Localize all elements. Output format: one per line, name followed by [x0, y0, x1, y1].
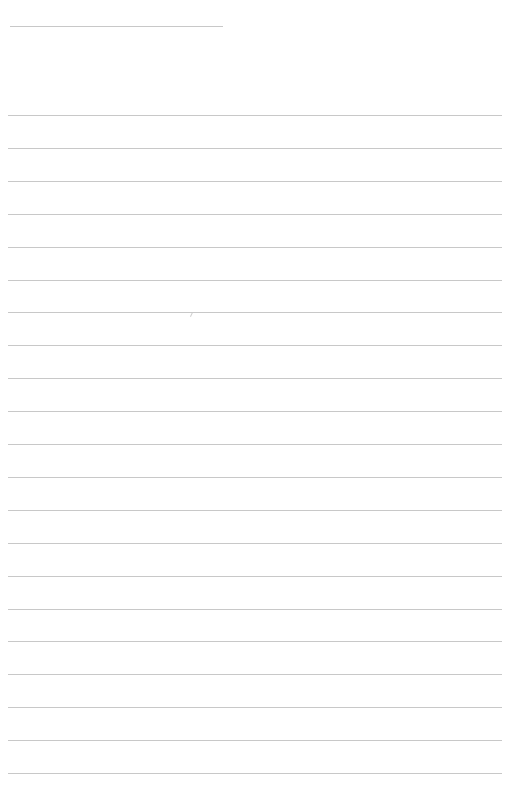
- ruled-line: [8, 543, 502, 544]
- ruled-line: [8, 773, 502, 774]
- ruled-line: [8, 641, 502, 642]
- ruled-line: [8, 181, 502, 182]
- header-line: [10, 26, 223, 27]
- ruled-line: [8, 115, 502, 116]
- ruled-line: [8, 280, 502, 281]
- ruled-line: [8, 378, 502, 379]
- ruled-line: [8, 674, 502, 675]
- ruled-line: [8, 707, 502, 708]
- ruled-line: [8, 510, 502, 511]
- ruled-line: [8, 444, 502, 445]
- ruled-line: [8, 345, 502, 346]
- ruled-line: [8, 576, 502, 577]
- ruled-line: [8, 247, 502, 248]
- ruled-line: [8, 148, 502, 149]
- ruled-line: [8, 740, 502, 741]
- ruled-line: [8, 477, 502, 478]
- ruled-line: [8, 312, 502, 313]
- ruled-line: [8, 411, 502, 412]
- ruled-line: [8, 214, 502, 215]
- ruled-line: [8, 609, 502, 610]
